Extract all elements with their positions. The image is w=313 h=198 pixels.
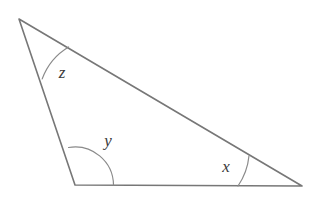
- triangle-outline: [19, 19, 302, 186]
- geometry-figure: z y x: [0, 0, 313, 198]
- triangle-diagram: [0, 0, 313, 198]
- angle-label-x: x: [222, 158, 230, 175]
- angle-arc-x: [238, 156, 249, 186]
- triangle-shape: [19, 19, 302, 186]
- angle-label-z: z: [59, 64, 66, 81]
- angle-label-y: y: [104, 132, 112, 149]
- angle-arc-y: [69, 147, 114, 185]
- angle-arcs: [42, 47, 249, 186]
